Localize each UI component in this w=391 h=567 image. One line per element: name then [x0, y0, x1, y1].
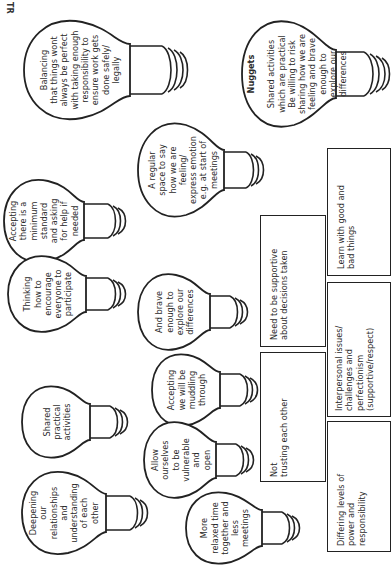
bulb-text: A regular space to say how we are feelin…: [139, 125, 227, 215]
bulb-nuggets: Nuggets Shared activities which are prac…: [240, 18, 390, 128]
bulb-body: Shared activities which are practical Be…: [266, 34, 348, 114]
bulb-text: Accepting we will be muddling through: [153, 355, 221, 425]
bulb-thinking: Thinking how to encourage everyone to pa…: [6, 254, 130, 334]
bulb-muddling: Accepting we will be muddling through: [150, 352, 262, 428]
box-text: Differing levels of power and responsibi…: [336, 426, 367, 546]
bulb-text: Thinking how to encourage everyone to pa…: [12, 254, 84, 334]
bulb-text: And brave enough to explore our differen…: [139, 275, 211, 349]
box-learn: Learn with good and bad things: [327, 148, 391, 276]
bulb-text: Nuggets Shared activities which are prac…: [244, 26, 340, 122]
bulb-brave: And brave enough to explore our differen…: [136, 272, 252, 352]
bulb-shared-practical: Shared practical activities: [20, 384, 130, 460]
box-text: Learn with good and bad things: [336, 149, 357, 269]
bulb-text: Accepting there is a minimum standard an…: [5, 179, 83, 263]
bulb-regular-space: A regular space to say how we are feelin…: [136, 120, 270, 220]
bulb-vulnerable: Allow ourselves to be vulnerable and ope…: [142, 420, 258, 500]
bulb-text: Deepening our relationships and understa…: [25, 469, 103, 557]
bulb-text: Balancing that things wont always be per…: [32, 20, 128, 120]
bulb-deepening: Deepening our relationships and understa…: [20, 470, 152, 556]
bulb-text: More relaxed time together and less meet…: [191, 489, 259, 567]
bulb-title: Nuggets: [246, 55, 256, 94]
box-interpersonal: Interpersonal issues/ challenges and per…: [327, 282, 391, 417]
bulb-balancing: Balancing that things wont always be per…: [22, 18, 190, 122]
box-supportive: Need to be supportive about decisions ta…: [260, 215, 326, 347]
box-text: Need to be supportive about decisions ta…: [269, 220, 290, 340]
bulb-text: Shared practical activities: [23, 387, 91, 457]
corner-label: TR: [5, 2, 14, 14]
bulb-accepting-minimum: Accepting there is a minimum standard an…: [2, 178, 130, 264]
bulb-text: Allow ourselves to be vulnerable and ope…: [145, 423, 217, 497]
box-text: Not trusting each other: [269, 357, 290, 477]
box-differing: Differing levels of power and responsibi…: [327, 421, 391, 552]
bulb-relaxed: More relaxed time together and less meet…: [184, 490, 304, 566]
box-text: Interpersonal issues/ challenges and per…: [334, 286, 375, 411]
box-not-trusting: Not trusting each other: [260, 352, 326, 482]
